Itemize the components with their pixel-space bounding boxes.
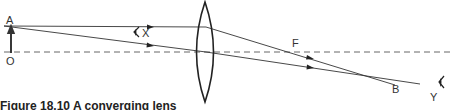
label-b: B	[392, 83, 399, 95]
eye-icon-y	[439, 76, 444, 88]
eye-icon-x	[134, 27, 139, 37]
label-y: Y	[430, 91, 438, 103]
label-x: X	[142, 27, 150, 39]
label-f: F	[292, 37, 299, 49]
figure-caption: Figure 18.10 A converging lens	[0, 99, 177, 110]
ray-arrowhead	[307, 65, 315, 70]
label-a: A	[6, 14, 14, 26]
label-o: O	[6, 55, 15, 67]
ray-diagram: A O X F B Y	[0, 0, 450, 110]
ray-parallel	[4, 26, 395, 85]
ray-arrowhead	[306, 55, 314, 60]
